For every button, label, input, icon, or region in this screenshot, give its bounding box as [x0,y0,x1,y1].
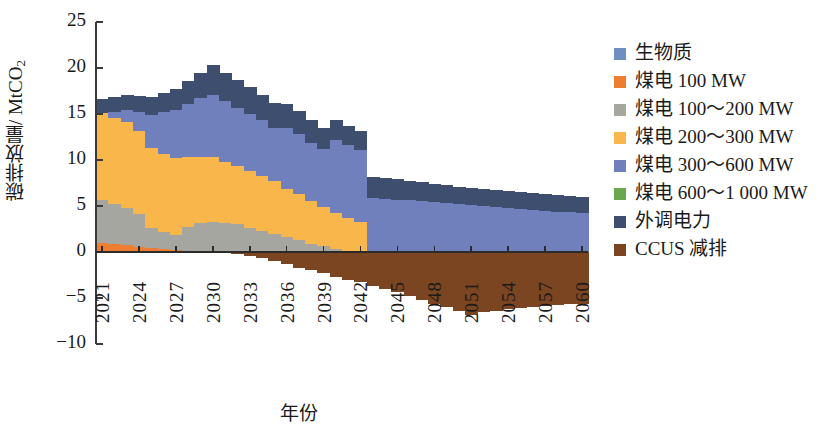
bar-segment [281,189,294,238]
bar-segment [514,192,527,209]
bar-segment [158,232,171,249]
chart-page: 碳排放量/ MtCO2 年份 2520151050−5−10 202120242… [0,0,836,431]
x-axis-tick-label: 2033 [240,281,262,323]
bar-segment [133,214,146,247]
bar-segment [121,245,134,252]
legend-color-swatch [614,188,626,200]
bar-segment [391,200,404,252]
legend-color-swatch [614,132,626,144]
x-axis-tick-label: 2048 [424,281,446,323]
bar-segment [182,81,195,104]
bar-segment [465,188,478,205]
bar-segment [391,179,404,199]
bar-segment [231,224,244,252]
bar-segment [170,89,183,110]
chart-legend: 生物质煤电 100 MW煤电 100～200 MW煤电 200～300 MW煤电… [614,38,836,262]
bar-segment [379,178,392,198]
bar-segment [477,189,490,206]
bar-segment [330,140,343,214]
legend-item[interactable]: 外调电力 [614,206,836,234]
bar-segment [539,211,552,252]
bar-segment [416,182,429,201]
legend-item[interactable]: 煤电 600～1 000 MW [614,178,836,206]
bar-segment [207,157,220,221]
legend-color-swatch [614,104,626,116]
bar-segment [330,252,343,277]
bar-segment [244,114,257,171]
bar-column [268,103,281,261]
bar-segment [268,181,281,233]
bar-segment [133,131,146,215]
bar-segment [182,227,195,251]
legend-item[interactable]: 煤电 100 MW [614,66,836,94]
x-axis-tick-label: 2051 [461,281,483,323]
legend-item[interactable]: CCUS 减排 [614,234,836,262]
legend-item-label: 生物质 [635,43,692,62]
bar-segment [490,190,503,207]
legend-item[interactable]: 生物质 [614,38,836,66]
bar-segment [108,244,121,252]
bar-segment [231,108,244,167]
bar-column [404,181,417,296]
x-axis-tick-label: 2027 [166,281,188,323]
bar-segment [539,194,552,211]
legend-color-swatch [614,48,626,60]
bar-column [244,87,257,255]
bar-segment [145,228,158,248]
bar-segment [404,200,417,252]
legend-item[interactable]: 煤电 300～600 MW [614,150,836,178]
bar-segment [170,158,183,234]
y-axis-title-subscript: 2 [13,60,28,67]
y-axis-tick-label: −5 [30,285,86,307]
y-axis-tick-label: 10 [30,147,86,169]
bar-segment [158,112,171,153]
bar-segment [416,201,429,252]
bar-segment [551,212,564,252]
bar-column [145,97,158,252]
bar-segment [145,97,158,115]
bar-column [391,179,404,292]
bar-segment [440,185,453,203]
y-axis-tick-label: −10 [30,331,86,353]
bar-segment [428,184,441,202]
legend-item[interactable]: 煤电 100～200 MW [614,94,836,122]
legend-item[interactable]: 煤电 200～300 MW [614,122,836,150]
bar-segment [219,162,232,223]
bar-segment [108,112,121,118]
bar-segment [281,128,294,189]
bar-segment [231,80,244,108]
bar-segment [256,95,269,121]
bar-column [354,131,367,282]
bar-segment [342,252,355,280]
bar-segment [170,110,183,158]
bar-segment [158,154,171,232]
bar-segment [121,208,134,245]
x-axis-tick-label: 2030 [203,281,225,323]
bar-segment [305,201,318,243]
bar-segment [342,218,355,251]
bar-segment [514,209,527,252]
stacked-bar-chart [0,0,620,431]
bar-segment [207,65,220,94]
legend-color-swatch [614,76,626,88]
bar-segment [121,110,134,122]
bar-segment [108,118,121,204]
bar-segment [354,150,367,222]
bar-segment [256,176,269,231]
bar-segment [121,122,134,208]
bar-segment [330,213,343,249]
bar-segment [121,95,134,111]
x-axis-tick-label: 2060 [572,281,594,323]
legend-item-label: 外调电力 [635,211,711,230]
bar-segment [490,207,503,252]
bar-segment [551,195,564,212]
bar-segment [256,231,269,252]
x-axis-title: 年份 [280,398,318,425]
bar-segment [96,200,109,242]
bar-segment [145,148,158,228]
bar-segment [293,111,306,134]
bar-column [170,89,183,252]
x-axis-tick-label: 2039 [314,281,336,323]
y-axis-tick-label: 20 [30,55,86,77]
bar-column [194,73,207,252]
